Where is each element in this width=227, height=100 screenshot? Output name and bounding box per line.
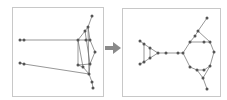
right-arrow-icon [104,41,122,55]
graph-edge [198,31,210,42]
graph-edge [78,40,83,67]
graph-node [143,43,146,46]
graph-node [202,77,205,80]
graph-node [165,52,168,55]
graph-node [197,30,200,33]
graph-node [19,62,22,65]
graph-node [91,81,94,84]
graph-node [77,39,80,42]
graph-node [182,52,185,55]
graph-node [189,41,192,44]
graph-node [23,39,26,42]
graph-node [23,63,26,66]
graph-node [87,26,90,29]
graph-node [85,39,88,42]
graph-node [149,47,152,50]
graph-edge [78,64,90,65]
graph-node [82,66,85,69]
graph-edge [90,40,95,52]
graph-edge [210,52,214,66]
graph-node [149,57,152,60]
graph-node [94,51,97,54]
graph-node [196,69,199,72]
graph-node [77,64,80,67]
graph-node [139,40,142,43]
graph-node [84,30,87,33]
graph-node [91,15,94,18]
before-graph-nodes [19,15,97,90]
graph-edge [78,31,85,40]
graph-edge [88,16,92,27]
graph-node [139,63,142,66]
graph-node [89,39,92,42]
graph-edge [203,78,207,89]
graph-edge [198,18,207,31]
graph-node [209,41,212,44]
graph-edge [210,42,214,52]
graph-node [194,35,197,38]
graph-edge [183,42,190,53]
graph-node [203,69,206,72]
graph-node [177,52,180,55]
graph-node [209,65,212,68]
before-graph-edges [20,16,95,88]
graph-node [189,66,192,69]
graph-edge [183,53,190,67]
graph-edge [90,52,95,64]
graph-node [206,88,209,91]
graph-node [206,17,209,20]
graph-node [88,73,91,76]
graph-edge [203,66,210,78]
graph-node [89,63,92,66]
graph-node [203,41,206,44]
graph-node [19,39,22,42]
graph-node [213,51,216,54]
graph-node [143,61,146,64]
graph-node [92,87,95,90]
graph-node [157,52,160,55]
